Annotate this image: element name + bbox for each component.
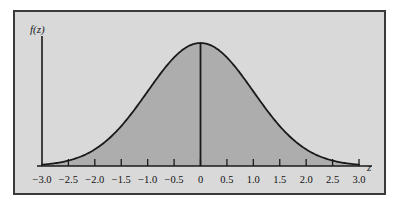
- x-tick-label: −2.5: [59, 175, 78, 186]
- x-tick-label: −0.5: [165, 175, 184, 186]
- x-tick-label: 2.5: [326, 175, 339, 186]
- x-tick-label: 2.0: [300, 175, 313, 186]
- x-tick-label: −2.0: [85, 175, 104, 186]
- x-axis-label: z: [367, 162, 371, 173]
- x-tick-label: 1.5: [273, 175, 286, 186]
- x-tick-label: 0.5: [220, 175, 233, 186]
- x-axis-tick-labels: −3.0−2.5−2.0−1.5−1.0−0.500.51.01.52.02.5…: [15, 12, 384, 193]
- x-tick-label: 1.0: [247, 175, 260, 186]
- x-tick-label: −1.0: [138, 175, 157, 186]
- figure-frame: −3.0−2.5−2.0−1.5−1.0−0.500.51.01.52.02.5…: [13, 10, 386, 195]
- x-tick-label: −3.0: [32, 175, 51, 186]
- x-tick-label: 0: [198, 175, 203, 186]
- x-tick-label: 3.0: [352, 175, 365, 186]
- x-tick-label: −1.5: [112, 175, 131, 186]
- y-axis-label: f(z): [30, 24, 45, 35]
